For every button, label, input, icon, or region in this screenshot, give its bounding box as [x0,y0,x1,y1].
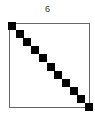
nonzero-marker [62,79,70,87]
nonzero-marker [54,71,62,79]
nonzero-marker [77,95,85,103]
nonzero-marker [85,103,93,111]
nonzero-marker [8,22,16,30]
nonzero-marker [39,54,47,62]
nonzero-marker [23,38,31,46]
sparsity-plot-area [9,23,90,108]
nonzero-marker [31,46,39,54]
nonzero-marker [16,30,24,38]
nonzero-marker [47,63,55,71]
chart-title: 6 [0,3,95,15]
nonzero-marker [70,87,78,95]
